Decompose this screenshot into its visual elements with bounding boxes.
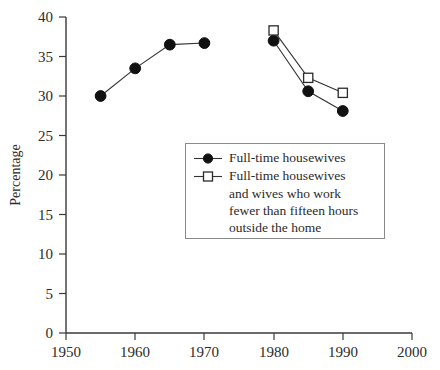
x-tick-marks [66, 333, 412, 340]
legend-label-continuation: fewer than fifteen hours [229, 202, 384, 219]
y-tick-label: 25 [38, 128, 53, 144]
data-point-filled-circle [199, 38, 210, 49]
data-point-filled-circle [95, 91, 106, 102]
y-tick-label: 40 [38, 9, 53, 25]
data-point-open-square [338, 88, 347, 97]
legend-marker-filled-circle-icon [193, 150, 223, 167]
x-tick-label: 1960 [120, 344, 150, 360]
y-tick-label: 15 [38, 207, 53, 223]
y-tick-label: 35 [38, 49, 53, 65]
x-tick-label: 1970 [189, 344, 219, 360]
legend-entry-full-time-and-part-time: Full-time housewives [193, 167, 384, 185]
data-point-filled-circle [303, 86, 314, 97]
data-point-filled-circle [164, 39, 175, 50]
chart-container: 40 35 30 25 20 15 10 5 0 1950 1960 1970 … [0, 0, 440, 370]
data-point-filled-circle [337, 106, 348, 117]
legend-entry-full-time-housewives: Full-time housewives [193, 149, 384, 167]
chart-legend: Full-time housewives Full-time housewive… [185, 143, 385, 239]
legend-label-continuation: and wives who work [229, 185, 384, 202]
legend-marker-open-square-icon [193, 168, 223, 185]
y-tick-label: 0 [46, 325, 54, 341]
y-tick-label: 10 [38, 246, 53, 262]
legend-label-continuation: outside the home [229, 219, 384, 236]
data-point-filled-circle [130, 63, 141, 74]
series-line [274, 30, 343, 92]
y-tick-marks [59, 17, 66, 333]
data-point-filled-circle [268, 35, 279, 46]
y-tick-label: 30 [38, 88, 53, 104]
series-layer [95, 26, 348, 117]
y-axis-title: Percentage [8, 144, 23, 205]
y-tick-label: 20 [38, 167, 53, 183]
x-tick-label: 2000 [397, 344, 427, 360]
x-tick-label: 1950 [51, 344, 81, 360]
legend-label: Full-time housewives [229, 167, 346, 184]
y-tick-labels: 40 35 30 25 20 15 10 5 0 [38, 9, 53, 341]
series-line [101, 43, 205, 96]
x-tick-labels: 1950 1960 1970 1980 1990 2000 [51, 344, 427, 360]
legend-label: Full-time housewives [229, 149, 346, 166]
y-tick-label: 5 [46, 286, 54, 302]
x-tick-label: 1990 [328, 344, 358, 360]
x-tick-label: 1980 [259, 344, 289, 360]
data-point-open-square [269, 26, 278, 35]
data-point-open-square [304, 73, 313, 82]
